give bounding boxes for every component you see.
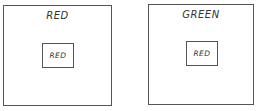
right-panel: GREEN RED xyxy=(148,4,254,105)
left-panel: RED RED xyxy=(3,5,112,106)
left-outer-label: RED xyxy=(4,10,111,21)
left-inner-square: RED xyxy=(42,43,74,68)
right-outer-label: GREEN xyxy=(149,9,253,20)
right-inner-label: RED xyxy=(193,49,210,58)
left-inner-label: RED xyxy=(49,51,66,60)
right-inner-square: RED xyxy=(186,41,218,66)
